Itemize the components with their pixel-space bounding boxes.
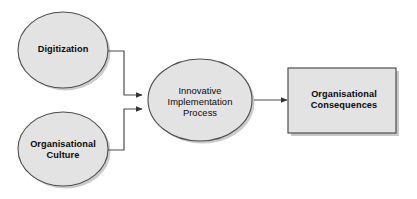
digitization-node[interactable]: [18, 12, 108, 88]
edge-culture-to-process: [108, 109, 142, 150]
organisational-consequences-node[interactable]: [288, 68, 396, 133]
organisational-culture-node[interactable]: [18, 112, 108, 186]
edge-digitization-to-process: [108, 51, 142, 95]
innovative-implementation-process-node[interactable]: [148, 59, 252, 141]
diagram-canvas: Digitization Organisational Culture Inno…: [0, 0, 417, 199]
diagram-graphics: [0, 0, 417, 199]
